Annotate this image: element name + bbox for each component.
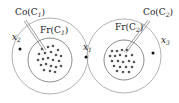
core-label-c2: Co(C2) xyxy=(143,7,173,18)
core-points-c2 xyxy=(109,49,136,74)
core-label-c1: Co(C1) xyxy=(15,7,45,18)
core-circle-c1 xyxy=(28,38,72,82)
cluster-c2: Co(C2) Fr(C2) x3 xyxy=(87,7,173,93)
outlier-point-x2 xyxy=(19,48,22,51)
core-points-c1 xyxy=(37,45,63,74)
middle-point-x1 xyxy=(85,56,88,59)
cluster-diagram: Co(C1) Fr(C1) x2 Co(C2) Fr(C2) x3 x1 xyxy=(0,0,179,103)
outlier-point-x3 xyxy=(152,52,155,55)
frontier-label-c1: Fr(C1) xyxy=(40,25,68,36)
frontier-label-c2: Fr(C2) xyxy=(115,22,143,33)
core-circle-c2 xyxy=(104,40,144,80)
outlier-label-x3: x3 xyxy=(161,35,170,46)
middle-label-x1: x1 xyxy=(83,42,92,53)
cluster-c1: Co(C1) Fr(C1) x2 xyxy=(12,7,88,94)
